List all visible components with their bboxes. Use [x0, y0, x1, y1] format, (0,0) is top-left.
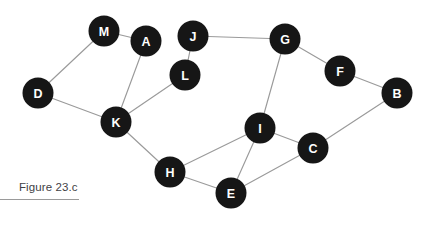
graph-node-E[interactable]: E: [216, 178, 247, 209]
graph-node-circle-C[interactable]: [298, 133, 329, 164]
edge-layer: [38, 31, 397, 193]
graph-node-circle-F[interactable]: [325, 56, 356, 87]
figure-caption-text: Figure 23.c: [19, 181, 78, 193]
graph-node-D[interactable]: D: [23, 78, 54, 109]
graph-node-A[interactable]: A: [131, 26, 162, 57]
figure-caption-block: Figure 23.c: [0, 181, 160, 211]
graph-node-B[interactable]: B: [382, 78, 413, 109]
graph-node-circle-L[interactable]: [170, 60, 201, 91]
graph-node-circle-D[interactable]: [23, 78, 54, 109]
graph-node-K[interactable]: K: [101, 107, 132, 138]
figure-container: MAJGFBDLKICHE Figure 23.c: [0, 0, 430, 225]
graph-node-L[interactable]: L: [170, 60, 201, 91]
graph-node-circle-E[interactable]: [216, 178, 247, 209]
graph-node-circle-A[interactable]: [131, 26, 162, 57]
graph-node-G[interactable]: G: [270, 24, 301, 55]
graph-node-C[interactable]: C: [298, 133, 329, 164]
graph-node-circle-G[interactable]: [270, 24, 301, 55]
graph-node-circle-B[interactable]: [382, 78, 413, 109]
graph-node-circle-I[interactable]: [245, 113, 276, 144]
graph-node-circle-K[interactable]: [101, 107, 132, 138]
graph-node-circle-M[interactable]: [89, 16, 120, 47]
graph-node-M[interactable]: M: [89, 16, 120, 47]
graph-node-F[interactable]: F: [325, 56, 356, 87]
figure-caption-rule: [0, 199, 79, 200]
graph-node-J[interactable]: J: [178, 21, 209, 52]
node-layer: MAJGFBDLKICHE: [23, 16, 413, 209]
graph-node-circle-J[interactable]: [178, 21, 209, 52]
graph-node-I[interactable]: I: [245, 113, 276, 144]
